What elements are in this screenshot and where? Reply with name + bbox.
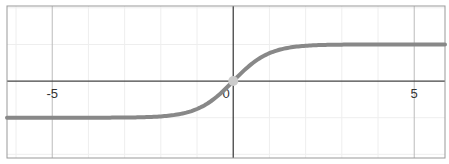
plot-background [7, 6, 445, 158]
x-tick-label: -5 [46, 86, 58, 101]
chart-plot: -505 [0, 0, 449, 164]
x-tick-label: 5 [411, 86, 418, 101]
origin-point[interactable] [228, 76, 238, 86]
